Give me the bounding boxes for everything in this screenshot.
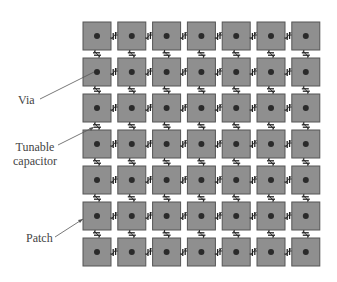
via-label: Via bbox=[18, 93, 35, 107]
unit-cell bbox=[257, 166, 285, 194]
unit-cell bbox=[187, 130, 215, 158]
via-dot bbox=[94, 105, 100, 111]
tunable-capacitor-icon bbox=[93, 86, 101, 94]
capacitor-tuning-arrow bbox=[129, 195, 135, 201]
tunable-capacitor-icon bbox=[128, 86, 136, 94]
via-dot bbox=[129, 33, 135, 39]
capacitor-tuning-arrow bbox=[198, 195, 204, 201]
tunable-capacitor-icon bbox=[302, 122, 310, 130]
unit-cell bbox=[222, 94, 250, 122]
via-dot bbox=[94, 33, 100, 39]
unit-cell bbox=[118, 166, 146, 194]
tunable-capacitor-icon bbox=[110, 248, 118, 256]
via-dot bbox=[198, 33, 204, 39]
via-dot bbox=[94, 249, 100, 255]
tunable-capacitor-icon bbox=[302, 230, 310, 238]
via-dot bbox=[198, 105, 204, 111]
via-dot bbox=[129, 177, 135, 183]
tunable-capacitor-icon bbox=[180, 68, 188, 76]
tunable-capacitor-icon bbox=[267, 158, 275, 166]
capacitor-tuning-arrow bbox=[233, 231, 239, 237]
via-dot bbox=[129, 141, 135, 147]
unit-cell bbox=[187, 22, 215, 50]
tunable-capacitor-icon bbox=[232, 50, 240, 58]
tunable-capacitor-icon bbox=[180, 176, 188, 184]
via-dot bbox=[198, 141, 204, 147]
tunable-capacitor-icon bbox=[128, 122, 136, 130]
unit-cell bbox=[292, 238, 320, 266]
tunable-capacitor-icon bbox=[197, 50, 205, 58]
via-dot bbox=[129, 213, 135, 219]
tunable-capacitor-icon bbox=[180, 104, 188, 112]
patch-leader-line bbox=[55, 219, 83, 237]
tunable-capacitor-icon bbox=[284, 176, 292, 184]
unit-cell bbox=[83, 166, 111, 194]
tunable-capacitor-icon bbox=[215, 68, 223, 76]
tunable-capacitor-icon bbox=[110, 176, 118, 184]
tunable-capacitor-icon bbox=[163, 230, 171, 238]
tunable-capacitor-icon bbox=[215, 176, 223, 184]
tunable-capacitor-icon bbox=[163, 86, 171, 94]
capacitor-tuning-arrow bbox=[303, 51, 309, 57]
tunable-capacitor-icon bbox=[145, 248, 153, 256]
tunable-capacitor-icon bbox=[302, 194, 310, 202]
via-dot bbox=[303, 249, 309, 255]
tunable-capacitor-icon bbox=[215, 140, 223, 148]
unit-cell bbox=[83, 238, 111, 266]
via-dot bbox=[198, 213, 204, 219]
patch-label: Patch bbox=[26, 231, 53, 245]
tunable-capacitor-icon bbox=[128, 230, 136, 238]
unit-cell bbox=[222, 22, 250, 50]
tunable-capacitor-icon bbox=[267, 50, 275, 58]
tunable-capacitor-icon bbox=[197, 86, 205, 94]
tunable-capacitor-icon bbox=[163, 50, 171, 58]
unit-cell bbox=[83, 130, 111, 158]
via-dot bbox=[268, 69, 274, 75]
unit-cell bbox=[118, 94, 146, 122]
via-dot bbox=[164, 105, 170, 111]
tunable-capacitor-icon bbox=[163, 158, 171, 166]
tunable-capacitor-icon bbox=[110, 140, 118, 148]
tunable-capacitor-icon bbox=[110, 212, 118, 220]
tunable-capacitor-icon bbox=[232, 230, 240, 238]
unit-cell bbox=[153, 166, 181, 194]
via-dot bbox=[94, 213, 100, 219]
tunable-capacitor-label: Tunable capacitor bbox=[10, 140, 60, 168]
capacitor-tuning-arrow bbox=[164, 123, 170, 129]
unit-cell bbox=[222, 202, 250, 230]
unit-cell bbox=[153, 130, 181, 158]
tunable-capacitor-icon bbox=[145, 140, 153, 148]
tunable-capacitor-icon bbox=[284, 248, 292, 256]
capacitor-tuning-arrow bbox=[268, 195, 274, 201]
tunable-capacitor-icon bbox=[110, 68, 118, 76]
capacitor-tuning-arrow bbox=[198, 123, 204, 129]
unit-cell bbox=[257, 202, 285, 230]
via-dot bbox=[198, 249, 204, 255]
capacitor-tuning-arrow bbox=[233, 159, 239, 165]
capacitor-tuning-arrow bbox=[233, 195, 239, 201]
tunable-capacitor-icon bbox=[250, 140, 258, 148]
tunable-capacitor-icon bbox=[250, 212, 258, 220]
unit-cell bbox=[292, 94, 320, 122]
tunable-capacitor-icon bbox=[215, 32, 223, 40]
unit-cell bbox=[222, 166, 250, 194]
via-dot bbox=[233, 249, 239, 255]
via-dot bbox=[233, 213, 239, 219]
unit-cell bbox=[187, 94, 215, 122]
tunable-capacitor-icon bbox=[232, 86, 240, 94]
tunable-capacitor-icon bbox=[302, 50, 310, 58]
capacitor-tuning-arrow bbox=[94, 159, 100, 165]
tunable-capacitor-icon bbox=[180, 248, 188, 256]
capacitor-tuning-arrow bbox=[164, 87, 170, 93]
tunable-capacitor-icon bbox=[250, 104, 258, 112]
tunable-capacitor-icon bbox=[110, 32, 118, 40]
tunable-capacitor-icon bbox=[232, 194, 240, 202]
unit-cell bbox=[187, 58, 215, 86]
tunable-capacitor-icon bbox=[284, 68, 292, 76]
via-dot bbox=[268, 177, 274, 183]
capacitor-tuning-arrow bbox=[303, 87, 309, 93]
tunable-capacitor-icon bbox=[267, 194, 275, 202]
unit-cell bbox=[153, 58, 181, 86]
capacitor-tuning-arrow bbox=[198, 231, 204, 237]
via-dot bbox=[164, 213, 170, 219]
